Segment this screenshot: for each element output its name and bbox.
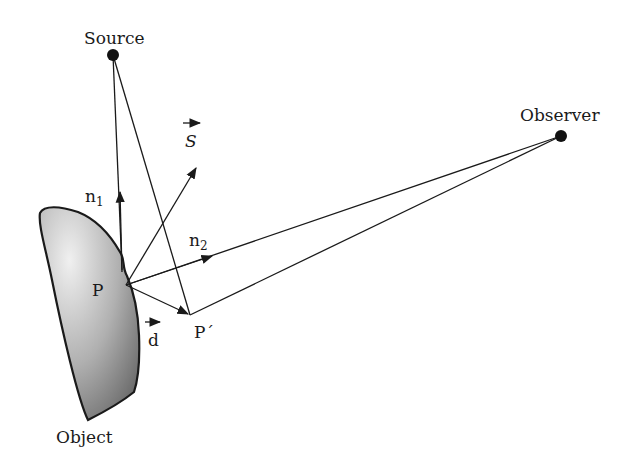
observer-point <box>555 130 567 142</box>
n2-label-main: n <box>189 230 200 250</box>
p-prime-to-observer-line <box>190 136 561 315</box>
n1-label-main: n <box>85 186 96 206</box>
scattering-geometry-diagram: Source Observer Object P P´ S d n1 n2 <box>0 0 622 468</box>
n2-arrow <box>126 256 212 285</box>
n1-label: n1 <box>85 186 104 209</box>
n1-label-sub: 1 <box>96 195 104 209</box>
s-label: S <box>185 131 197 151</box>
source-label: Source <box>84 28 145 48</box>
n2-label: n2 <box>189 230 208 253</box>
point-p-prime-label: P´ <box>194 322 214 342</box>
object-label: Object <box>56 427 113 447</box>
diagram-canvas: Source Observer Object P P´ S d n1 n2 <box>0 0 622 468</box>
point-p-label: P <box>92 280 103 300</box>
object-shape <box>40 207 140 420</box>
d-label: d <box>148 330 159 350</box>
observer-label: Observer <box>520 105 600 125</box>
n2-label-sub: 2 <box>200 239 208 253</box>
s-direction-arrow <box>126 168 196 285</box>
source-point <box>107 49 119 61</box>
